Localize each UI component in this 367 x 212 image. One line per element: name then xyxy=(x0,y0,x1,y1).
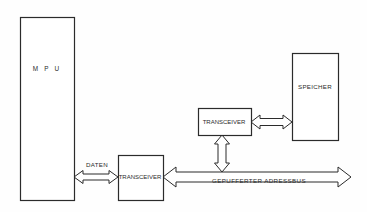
label-gepufferter-adressbus: GEPUFFERTER ADRESSBUS xyxy=(212,177,306,184)
block-mpu-label: M P U xyxy=(33,65,62,72)
block-transceiver-data-label: TRANSCEIVER xyxy=(119,174,162,180)
block-diagram: M P UTRANSCEIVERTRANSCEIVERSPEICHERDATEN… xyxy=(0,0,367,212)
arrow-mpu-transceiver-data xyxy=(74,171,118,184)
label-daten: DATEN xyxy=(86,161,108,168)
block-transceiver-address: TRANSCEIVER xyxy=(199,109,252,136)
block-speicher-label: SPEICHER xyxy=(298,83,332,90)
diagram-canvas: M P UTRANSCEIVERTRANSCEIVERSPEICHERDATEN… xyxy=(0,0,367,212)
block-speicher: SPEICHER xyxy=(293,54,339,141)
block-transceiver-data: TRANSCEIVER xyxy=(119,156,164,201)
block-transceiver-address-label: TRANSCEIVER xyxy=(203,119,246,125)
block-mpu-outline xyxy=(21,18,75,201)
arrow-transceiver-address-speicher xyxy=(251,115,292,129)
arrow-transceiver-address-to-bus xyxy=(215,135,230,172)
block-speicher-outline xyxy=(293,54,339,141)
block-mpu: M P U xyxy=(21,18,75,201)
